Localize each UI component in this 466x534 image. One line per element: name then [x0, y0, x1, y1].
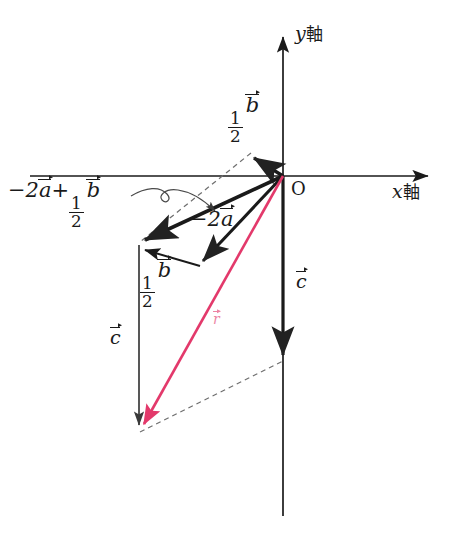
label-half-b-lower: 1 2 b [140, 260, 171, 310]
fraction-one-half: 1 2 [228, 110, 243, 145]
vector-r-letter: r [213, 311, 220, 327]
vector-c-letter: c [110, 326, 121, 348]
label-sum-expression: −2a+ 1 2 b [8, 180, 100, 230]
fraction-numerator: 1 [228, 110, 243, 127]
label-minus-two-a: −2a [190, 209, 234, 230]
vector-c-letter: c [296, 270, 307, 292]
diagram-canvas [0, 0, 466, 534]
fraction-one-half-sum: 1 2 [69, 195, 84, 230]
fraction-numerator: 1 [140, 275, 155, 292]
vector-a-glyph-2: a [221, 209, 234, 230]
vector-r-glyph: r [213, 312, 220, 326]
fraction-one-half-lower: 1 2 [140, 275, 155, 310]
x-axis-label-var: x [392, 180, 403, 202]
vector-b-glyph: b [246, 95, 259, 116]
label-c-right: c [296, 272, 307, 291]
label-half-b-upper: 1 2 b [228, 95, 259, 145]
vector-b-glyph-lower: b [158, 260, 171, 281]
vector-b-letter: b [246, 93, 259, 117]
y-axis-label-var: y [295, 22, 306, 44]
x-axis-label: x軸 [392, 182, 420, 201]
vector-a-glyph: a [39, 180, 52, 201]
origin-label: O [291, 180, 306, 198]
vector-b-letter: b [87, 178, 100, 202]
label-c-left: c [110, 328, 121, 347]
fraction-denominator: 2 [69, 212, 84, 230]
vector-c-glyph-right: c [296, 272, 307, 291]
vector-a-letter: a [221, 207, 234, 231]
vector-c-glyph-left: c [110, 328, 121, 347]
vector-half-b-upper [254, 158, 283, 176]
y-axis-label-suffix: 軸 [306, 24, 323, 44]
minus-two-a-text: −2 [190, 207, 221, 231]
vector-b-glyph-sum: b [87, 180, 100, 201]
dashed-parallelogram-lower [140, 361, 283, 432]
vector-a-letter: a [39, 178, 52, 202]
sum-lead: −2 [8, 178, 39, 202]
y-axis-label: y軸 [295, 24, 323, 43]
x-axis-label-suffix: 軸 [403, 182, 420, 202]
fraction-denominator: 2 [228, 127, 243, 145]
vector-diagram-figure: y軸 x軸 O 1 2 b −2a+ 1 2 b −2a 1 2 b c c [0, 0, 466, 534]
vector-b-letter: b [158, 258, 171, 282]
fraction-denominator: 2 [140, 292, 155, 310]
label-r-resultant: r [213, 312, 220, 326]
sum-plus: + [52, 178, 70, 202]
fraction-numerator: 1 [69, 195, 84, 212]
